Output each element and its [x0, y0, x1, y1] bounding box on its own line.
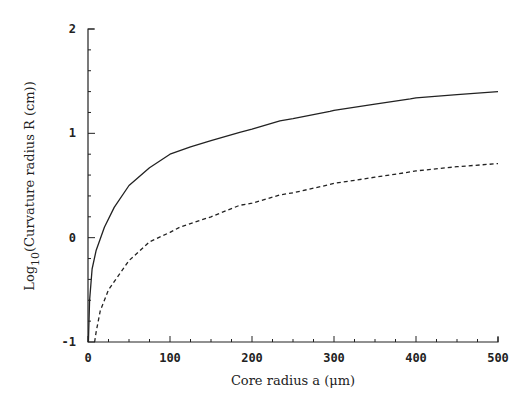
x-tick-label: 0 [84, 351, 91, 365]
x-tick-label: 100 [159, 351, 181, 365]
y-tick-label: 2 [69, 22, 76, 36]
x-tick-label: 300 [323, 351, 345, 365]
y-axis-title-log: Log [22, 266, 37, 291]
axis-frame [88, 29, 498, 342]
y-tick-label: 1 [69, 126, 76, 140]
chart: 0100200300400500-1012 Core radius a (μm)… [0, 0, 510, 414]
y-axis-title-rest: (Curvature radius R (cm)) [22, 81, 37, 252]
x-tick-label: 500 [487, 351, 509, 365]
y-tick-label: 0 [69, 231, 76, 245]
x-tick-label: 400 [405, 351, 427, 365]
dashed-curve [95, 164, 498, 342]
plot-area [88, 92, 498, 342]
x-axis-title: Core radius a (μm) [231, 373, 355, 388]
y-axis-title-subscript: 10 [29, 252, 42, 266]
x-tick-label: 200 [241, 351, 263, 365]
y-tick-label: -1 [62, 335, 76, 349]
y-axis-title: Log10(Curvature radius R (cm)) [22, 81, 42, 290]
solid-curve [88, 92, 498, 342]
